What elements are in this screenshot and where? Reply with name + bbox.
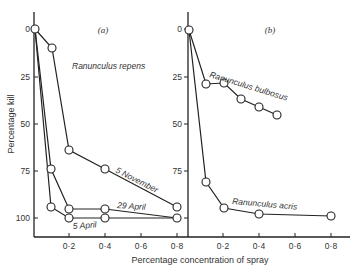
panel-b-label: (b) bbox=[265, 25, 276, 35]
ytick-b-25: 25 bbox=[173, 72, 183, 82]
xtick-a-0.4: 0·4 bbox=[99, 241, 112, 251]
xtick-a-0.8: 0·8 bbox=[171, 241, 184, 251]
ytick-a-75: 75 bbox=[21, 166, 31, 176]
chart-figure: 0 25 50 75 100 0 25 50 75 0·2 0·4 0·6 0·… bbox=[0, 0, 362, 270]
ytick-a-25: 25 bbox=[21, 72, 31, 82]
series-acris-line bbox=[189, 30, 331, 216]
ytick-a-100: 100 bbox=[16, 213, 30, 223]
x-axis-title: Percentage concentration of spray bbox=[131, 255, 269, 265]
panel-a-label: (a) bbox=[98, 25, 109, 35]
xtick-b-0.4: 0·4 bbox=[253, 241, 266, 251]
xtick-a-0.6: 0·6 bbox=[135, 241, 148, 251]
series-acris-label: Ranunculus acris bbox=[232, 196, 299, 212]
series-5-november-label: 5 November bbox=[114, 165, 161, 195]
ytick-a-50: 50 bbox=[21, 119, 31, 129]
xtick-b-0.8: 0·8 bbox=[325, 241, 338, 251]
series-bulbosus-line bbox=[189, 30, 277, 115]
series-bulbosus-label: Ranunculus bulbosus bbox=[208, 69, 289, 103]
species-a-label: Ranunculus repens bbox=[72, 61, 146, 71]
y-axis-title: Percentage kill bbox=[6, 94, 16, 153]
ytick-a-0: 0 bbox=[25, 24, 30, 34]
ytick-b-50: 50 bbox=[173, 119, 183, 129]
xtick-b-0.6: 0·6 bbox=[289, 241, 302, 251]
xtick-b-0.2: 0·2 bbox=[217, 241, 230, 251]
ytick-b-0: 0 bbox=[177, 24, 182, 34]
ytick-b-75: 75 bbox=[173, 166, 183, 176]
xtick-a-0.2: 0·2 bbox=[63, 241, 76, 251]
series-29-april-label: 29 April bbox=[116, 200, 147, 212]
panel-b-markers bbox=[185, 26, 335, 220]
series-5-april-label: 5 April bbox=[72, 219, 98, 231]
